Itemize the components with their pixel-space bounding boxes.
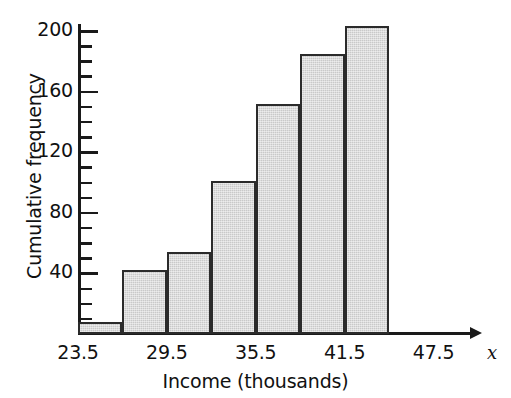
x-axis-variable-label: x	[487, 342, 497, 363]
x-axis-tick-label: 47.5	[413, 341, 455, 363]
histogram-bar	[122, 270, 166, 334]
histogram-bar	[211, 181, 255, 334]
histogram-bar	[345, 26, 389, 334]
bar-series	[78, 25, 478, 334]
y-axis-tick-label: 80	[49, 200, 73, 222]
y-axis-tick-label: 40	[49, 260, 73, 282]
x-axis-tick-label: 41.5	[324, 341, 366, 363]
cumulative-frequency-chart: 4080120160200 23.529.535.541.547.5 x Inc…	[0, 0, 511, 398]
x-axis-tick-label: 23.5	[57, 341, 99, 363]
y-axis-tick-label: 200	[37, 18, 73, 40]
histogram-bar	[300, 54, 344, 334]
x-axis-tick-label: 29.5	[146, 341, 188, 363]
histogram-bar	[167, 252, 211, 334]
y-axis-title: Cumulative frequency	[23, 56, 45, 296]
x-axis-title: Income (thousands)	[0, 370, 511, 392]
histogram-bar	[78, 322, 122, 334]
x-axis-tick-label: 35.5	[235, 341, 277, 363]
histogram-bar	[256, 104, 300, 334]
